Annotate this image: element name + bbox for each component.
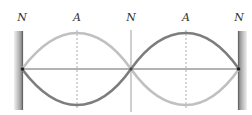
node-dot-left — [21, 67, 25, 71]
standing-wave-diagram: N A N A N — [0, 0, 252, 115]
label-node-left: N — [16, 11, 27, 24]
label-antinode-right: A — [181, 11, 190, 24]
label-node-center: N — [125, 11, 136, 24]
node-dot-right — [237, 67, 241, 71]
label-node-right: N — [233, 11, 244, 24]
node-dot-center — [129, 67, 132, 70]
label-antinode-left: A — [72, 11, 81, 24]
